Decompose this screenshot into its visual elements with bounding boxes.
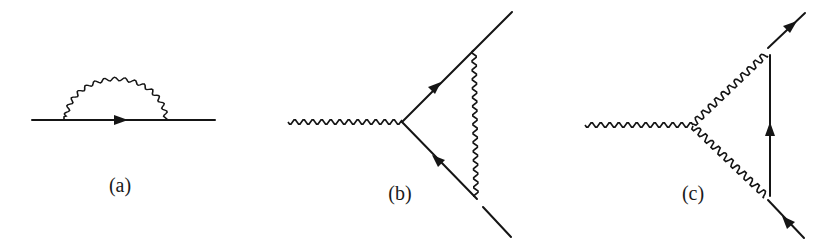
arrow-right-icon xyxy=(114,115,128,125)
incoming-fermion-line-ext xyxy=(483,207,511,237)
arrow-up-icon xyxy=(765,122,775,136)
feynman-diagram-figure: (a) (b) (c) xyxy=(0,0,834,250)
external-photon-line xyxy=(585,123,693,127)
panel-label-a: (a) xyxy=(109,174,131,197)
internal-photon-line xyxy=(472,50,478,197)
panel-a: (a) xyxy=(32,77,215,197)
photon-loop xyxy=(64,77,168,120)
panel-label-b: (b) xyxy=(388,182,411,205)
panel-b: (b) xyxy=(288,12,512,237)
outgoing-fermion-line xyxy=(768,13,805,48)
outgoing-fermion-line xyxy=(402,12,512,122)
panel-label-c: (c) xyxy=(682,182,704,205)
panel-c: (c) xyxy=(585,13,805,238)
external-photon-line xyxy=(288,120,402,124)
arrow-up-right-icon xyxy=(428,82,441,94)
upper-internal-photon-line xyxy=(693,54,768,125)
